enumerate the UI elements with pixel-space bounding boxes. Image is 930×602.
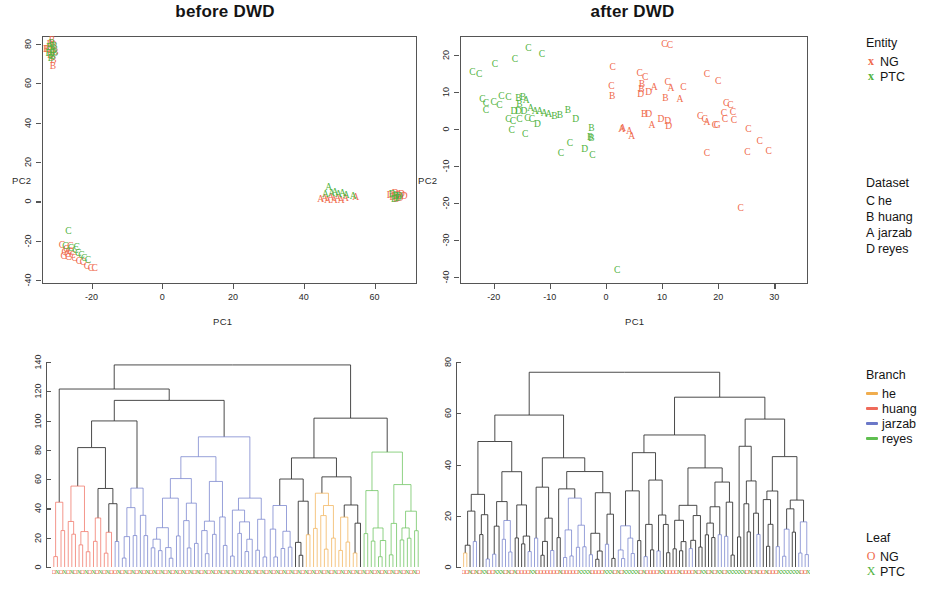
dendrogram-branch <box>621 526 626 550</box>
dendrogram-branch <box>517 505 522 538</box>
dendro-right-ytick-label: 60 <box>443 408 453 418</box>
dendrogram-branch <box>783 556 785 567</box>
dendrogram-branch <box>710 507 715 523</box>
dendrogram-branch <box>522 505 527 536</box>
dendrogram-branch <box>411 511 416 531</box>
dendrogram-branch <box>575 498 581 525</box>
dendrogram-branch <box>688 505 697 515</box>
dendrogram-branch <box>170 498 178 536</box>
dendrogram-branch <box>705 468 722 482</box>
dendrogram-branch <box>784 529 786 556</box>
dendrogram-branch <box>372 491 378 528</box>
before-xtick-label: 20 <box>228 292 238 302</box>
dendrogram-branch <box>344 505 351 517</box>
dendrogram-branch <box>509 552 511 567</box>
branch-he-color-swatch <box>866 392 878 394</box>
leaf-ng-circle-icon: O <box>866 550 876 563</box>
dendrogram-branch <box>373 528 378 541</box>
dendrogram-branch <box>757 534 759 567</box>
branch-huang-color-swatch <box>866 407 878 409</box>
dendrogram-branch <box>93 541 95 567</box>
branch-jarzab-color-swatch <box>866 422 878 424</box>
legend-leaf: Leaf O NG X PTC <box>866 531 905 579</box>
dendrogram-branch <box>481 515 484 535</box>
dendro-right-ytick <box>456 567 461 568</box>
dendrogram-branch <box>124 558 126 567</box>
scatter-after-ylabel: PC2 <box>418 175 437 186</box>
dendrogram-branch <box>559 538 561 567</box>
dendrogram-branch <box>270 529 273 567</box>
dendrogram-branch <box>153 539 157 548</box>
before-ytick-label: 40 <box>23 118 33 128</box>
dendrogram-branch <box>589 555 591 567</box>
dendrogram-branch <box>117 542 119 568</box>
legend-branch-reyes-label: reyes <box>882 432 913 446</box>
dendrogram-branch <box>485 515 488 559</box>
dendrogram-branch <box>691 540 693 548</box>
dendrogram-branch <box>314 418 351 458</box>
dendrogram-branch <box>323 516 326 550</box>
dendrogram-branch <box>468 545 470 567</box>
dendrogram-branch <box>767 500 771 525</box>
dendrogram-branch <box>407 538 409 567</box>
before-ytick <box>36 201 41 202</box>
dendrogram-branch <box>104 553 106 567</box>
dendrogram-branch <box>198 437 224 457</box>
dendrogram-branch <box>659 515 663 551</box>
dendrogram-branch <box>238 510 244 522</box>
after-xtick-label: 30 <box>769 292 779 302</box>
before-ytick <box>36 44 41 45</box>
dendrogram-branch <box>106 553 108 567</box>
dendrogram-branch <box>632 491 639 541</box>
after-ytick-label: -40 <box>441 270 451 283</box>
dendrogram-branch <box>568 530 571 556</box>
dendrogram-branch <box>113 504 117 542</box>
before-ytick-label: -20 <box>23 234 33 247</box>
scatter-before-plot-area <box>42 36 417 284</box>
dataset-label-jarzab: jarzab <box>878 226 912 240</box>
dendrogram-branch <box>339 550 341 567</box>
dendrogram-branch <box>220 517 223 567</box>
dendrogram-branch <box>465 545 467 553</box>
dendrogram-branch <box>196 543 198 567</box>
legend-entity-title: Entity <box>866 36 905 50</box>
dendrogram-branch <box>631 554 633 567</box>
dendrogram-branch <box>720 397 765 419</box>
dendrogram-branch <box>351 505 358 523</box>
dendrogram-branch <box>105 488 112 503</box>
dataset-label-he: he <box>878 194 892 208</box>
dendrogram-branch <box>191 503 196 543</box>
dendrogram-branch <box>673 549 675 567</box>
scatter-after-plot-area <box>460 36 808 284</box>
before-xtick-label: 0 <box>160 292 165 302</box>
dendrogram-branch <box>348 542 350 567</box>
after-xtick <box>718 284 719 289</box>
dendrogram-branch <box>495 442 512 472</box>
dendrogram-branch <box>402 528 406 540</box>
legend-branch-huang-label: huang <box>882 402 917 416</box>
dendrogram-branch <box>240 522 245 534</box>
before-ytick-label: 20 <box>23 157 33 167</box>
dendrogram-branch <box>205 554 207 567</box>
dendrogram-branch <box>707 523 710 535</box>
dendrogram-branch <box>515 538 517 567</box>
dendrogram-branch <box>256 550 258 567</box>
dendrogram-branch <box>583 547 585 567</box>
dendrogram-branch <box>797 500 804 522</box>
dendrogram-branch <box>565 558 567 567</box>
legend-dataset: Dataset C he B huang A jarzab D reyes <box>866 176 913 258</box>
dendrogram-branch <box>153 548 155 567</box>
dendrogram-branch <box>78 448 92 486</box>
dendrogram-branch <box>328 506 333 539</box>
dendro-left-ytick-label: 140 <box>33 354 43 369</box>
entity-ng-x-icon: x <box>866 55 876 68</box>
dendrogram-branch <box>387 452 402 485</box>
dendrogram-branch <box>715 482 722 507</box>
dendrogram-branch <box>214 534 216 567</box>
dendrogram-branch <box>523 536 526 544</box>
legend-entity: Entity x NG x PTC <box>866 36 905 84</box>
dendrogram-branch <box>406 528 410 538</box>
legend-dataset-item-jarzab: A jarzab <box>866 226 913 242</box>
dendrogram-branch <box>768 546 770 567</box>
dendro-left-ytick <box>46 567 51 568</box>
